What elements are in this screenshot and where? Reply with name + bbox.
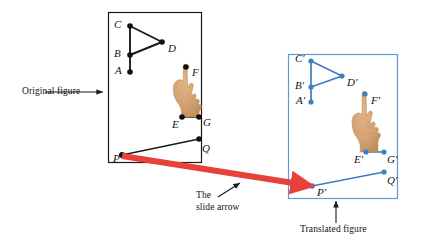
segment-Pp-Qp (312, 172, 384, 186)
label-point-G: G (203, 116, 211, 128)
label-point-E: E (172, 118, 179, 130)
label-point-P-prime: P′ (317, 186, 326, 198)
label-point-Q: Q (202, 142, 210, 154)
segment-P-Q (122, 139, 199, 155)
point-F-prime (362, 91, 367, 96)
point-E-prime (363, 149, 368, 154)
point-F (183, 64, 189, 70)
label-point-E-prime: E′ (354, 153, 363, 165)
segment-C-D (130, 26, 162, 42)
segment-D-B (130, 42, 162, 55)
annotation-translated-figure: Translated figure (300, 224, 367, 234)
point-Q-prime (381, 169, 386, 174)
label-point-Q-prime: Q′ (387, 174, 397, 186)
segment-Dp-Bp (311, 76, 342, 87)
label-point-F-prime: F′ (371, 94, 380, 106)
annotation-slide-arrow-line2: slide arrow (196, 202, 240, 214)
figure-canvas: A B C D F E G P Q A′ B′ C′ D′ F′ E′ G′ P… (0, 0, 425, 245)
point-A-prime (308, 99, 313, 104)
label-point-C-prime: C′ (295, 52, 305, 64)
label-point-C: C (114, 18, 121, 30)
annotation-original-figure: Original figure (22, 86, 80, 96)
point-C-prime (308, 58, 313, 63)
point-Q (196, 136, 202, 142)
annotation-slide-arrow: The slide arrow (196, 190, 240, 213)
point-D-prime-apex (339, 73, 344, 78)
label-point-B-prime: B′ (295, 79, 304, 91)
segment-Cp-Dp (311, 61, 342, 76)
point-A (127, 69, 133, 75)
point-B-prime (308, 84, 313, 89)
point-G (196, 114, 202, 120)
label-point-D: D (168, 42, 176, 54)
point-E (179, 114, 185, 120)
label-point-F: F (192, 66, 199, 78)
point-B (127, 52, 133, 58)
slide-arrow (122, 156, 306, 185)
point-G-prime (381, 149, 386, 154)
label-point-G-prime: G′ (387, 153, 397, 165)
label-point-B: B (114, 47, 121, 59)
label-point-P: P (113, 152, 120, 164)
point-C (127, 23, 133, 29)
point-P-prime (309, 183, 315, 189)
point-D-apex (159, 39, 165, 45)
label-point-A: A (115, 64, 122, 76)
label-point-A-prime: A′ (296, 94, 305, 106)
annotation-slide-arrow-line1: The (196, 190, 240, 202)
label-point-D-prime: D′ (347, 76, 357, 88)
